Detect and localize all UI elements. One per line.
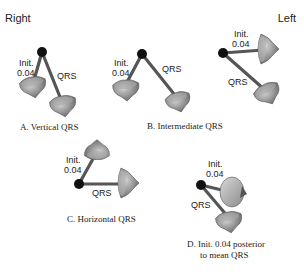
panel-a-caption: A. Vertical QRS	[20, 122, 79, 132]
qrs-label: QRS	[162, 64, 182, 74]
init-vector-cone-icon	[19, 75, 48, 100]
qrs-label: QRS	[57, 71, 77, 81]
qrs-label: QRS	[228, 77, 248, 87]
panel-a: Init. 0.04 QRS A. Vertical QRS	[17, 47, 79, 132]
qrs-vector-cone-icon	[215, 210, 244, 235]
panel-c: Init. 0.04 QRS C. Horizontal QRS	[64, 140, 139, 224]
qrs-vector-cone-icon	[49, 94, 78, 119]
init-label: Init.	[234, 29, 249, 39]
init-label: Init.	[208, 159, 223, 169]
panel-b-caption: B. Intermediate QRS	[147, 121, 223, 131]
origin-dot	[37, 47, 47, 57]
panel-d-caption-line2: to mean QRS	[200, 250, 249, 260]
init-label: Init.	[114, 58, 129, 68]
origin-dot	[74, 179, 84, 189]
panel-d: Init. 0.04 QRS D. Init. 0.04 posterior t…	[187, 159, 265, 260]
qrs-vector-cone-icon	[164, 89, 193, 115]
init-value: 0.04	[17, 68, 35, 78]
init-label: Init.	[66, 155, 81, 165]
init-label: Init.	[19, 58, 34, 68]
init-value: 0.04	[64, 165, 82, 175]
panel-d-caption-line1: D. Init. 0.04 posterior	[187, 239, 265, 249]
origin-dot	[137, 49, 147, 59]
qrs-vector-cone-icon	[118, 168, 139, 198]
init-value: 0.04	[232, 39, 250, 49]
init-value: 0.04	[112, 68, 130, 78]
origin-dot	[218, 48, 228, 58]
panel-b-left: Init. 0.04 QRS	[218, 29, 284, 109]
init-vector-cone-icon	[258, 34, 279, 64]
qrs-label: QRS	[191, 200, 211, 210]
vector-diagram: Init. 0.04 QRS A. Vertical QRS Init. 0.0…	[0, 0, 304, 275]
init-vector-cone-icon	[85, 140, 110, 160]
panel-b: Init. 0.04 QRS B. Intermediate QRS	[112, 49, 223, 131]
init-vector-cone-icon	[112, 79, 140, 102]
init-value: 0.04	[206, 169, 224, 179]
panel-c-caption: C. Horizontal QRS	[67, 214, 136, 224]
init-vector-disc-icon	[220, 177, 244, 207]
qrs-label: QRS	[92, 188, 112, 198]
origin-dot	[196, 180, 206, 190]
